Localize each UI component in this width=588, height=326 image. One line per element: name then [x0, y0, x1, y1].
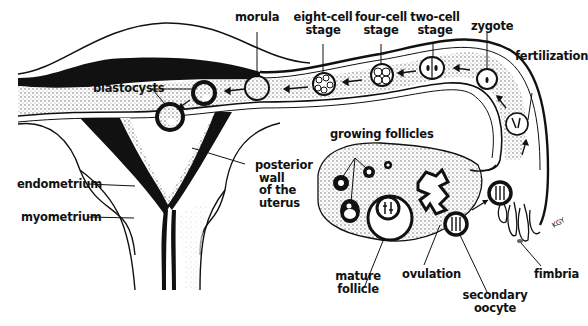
blastocyst-1 — [193, 82, 215, 104]
label-line: oocyte — [460, 302, 530, 315]
label-line: stage — [290, 24, 356, 37]
label-line: eight-cell — [290, 11, 356, 24]
two-cell — [420, 57, 444, 79]
fertilization-cell — [506, 113, 528, 135]
label-posterior-wall: posterior wall of the uterus — [255, 159, 313, 209]
label-myometrium: myometrium — [21, 211, 101, 224]
four-cell — [371, 64, 393, 86]
zygote-cell — [477, 69, 497, 89]
label-mature-follicle: mature follicle — [330, 270, 386, 295]
label-blastocysts: blastocysts — [93, 82, 164, 95]
label-line: follicle — [330, 283, 386, 296]
label-four-cell-stage: four-cell stage — [351, 11, 411, 36]
label-line: two-cell — [407, 11, 463, 24]
label-growing-follicles: growing follicles — [330, 128, 434, 141]
label-line: uterus — [255, 197, 313, 210]
label-zygote: zygote — [471, 20, 513, 33]
label-line: secondary — [460, 289, 530, 302]
label-two-cell-stage: two-cell stage — [407, 11, 463, 36]
label-fimbria: fimbria — [534, 268, 579, 281]
label-eight-cell-stage: eight-cell stage — [290, 11, 356, 36]
label-line: stage — [407, 24, 463, 37]
label-ovulation: ovulation — [402, 268, 461, 281]
label-line: four-cell — [351, 11, 411, 24]
label-line: mature — [330, 270, 386, 283]
label-line: posterior — [255, 159, 313, 172]
label-morula: morula — [235, 11, 279, 24]
label-fertilization: fertilization — [515, 50, 588, 63]
label-line: stage — [351, 24, 411, 37]
eight-cell — [313, 73, 335, 95]
label-secondary-oocyte: secondary oocyte — [460, 289, 530, 314]
label-endometrium: endometrium — [17, 178, 102, 191]
morula-cell — [245, 76, 269, 100]
label-line: of the — [255, 184, 313, 197]
